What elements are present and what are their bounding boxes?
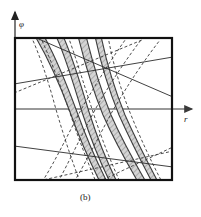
solid-line-group: [14, 37, 173, 167]
phase-space-plot: [0, 0, 201, 217]
figure-caption: (b): [80, 192, 91, 202]
x-axis-label: r: [184, 114, 188, 124]
y-axis-label: φ: [19, 19, 24, 29]
figure-panel-b: [0, 0, 201, 217]
